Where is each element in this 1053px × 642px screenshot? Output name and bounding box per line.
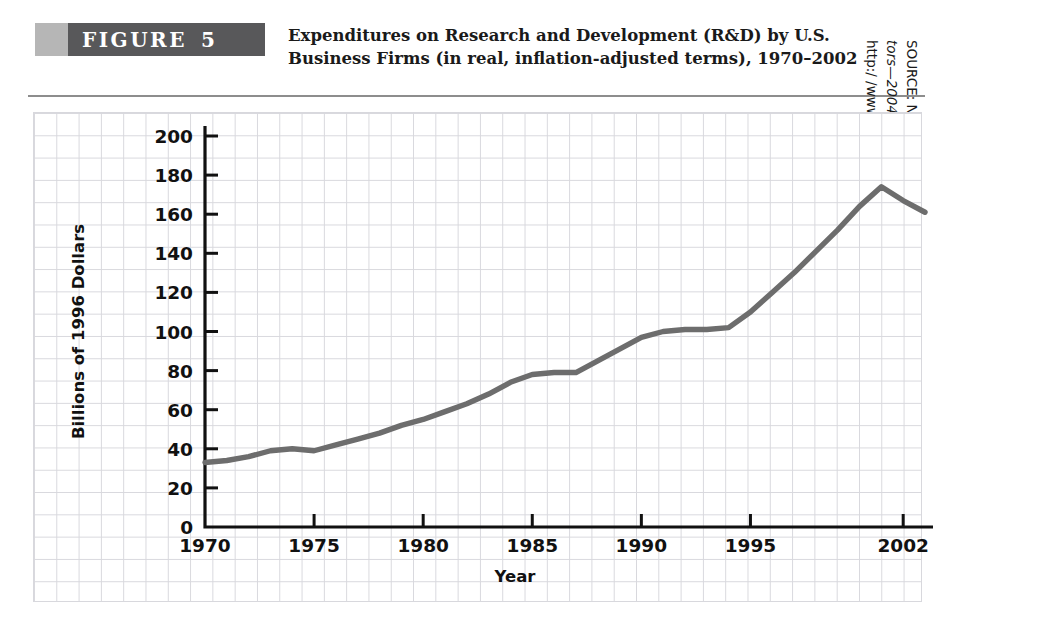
banner-accent-block xyxy=(35,23,68,56)
banner-label-block: FIGURE 5 xyxy=(68,23,265,56)
caption-divider xyxy=(28,95,925,97)
figure-number: 5 xyxy=(201,28,215,52)
caption-line-1: Expenditures on Research and Development… xyxy=(288,24,908,47)
figure-word: FIGURE xyxy=(82,28,187,52)
figure-caption: Expenditures on Research and Development… xyxy=(288,24,908,70)
figure-banner: FIGURE 5 xyxy=(35,23,265,56)
graph-paper-background xyxy=(33,112,922,602)
source-line-2-italic: tors—2004 xyxy=(884,40,900,114)
caption-line-2: Business Firms (in real, inflation-adjus… xyxy=(288,47,908,70)
